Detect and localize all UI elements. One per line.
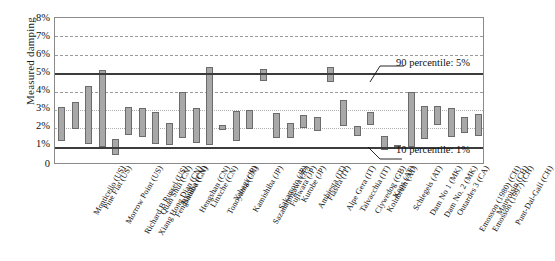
bar xyxy=(367,112,374,125)
bar xyxy=(139,108,146,137)
bar xyxy=(99,70,106,146)
annotation-p90-leader xyxy=(370,62,406,84)
bar xyxy=(58,107,65,141)
gridline-7 xyxy=(55,36,483,37)
bar xyxy=(300,115,307,128)
bar xyxy=(193,108,200,143)
bar xyxy=(166,123,173,145)
gridline-2 xyxy=(55,128,483,129)
reference-line-5 xyxy=(55,73,483,75)
y-tick-1: 1% xyxy=(26,139,50,150)
bar xyxy=(246,110,253,129)
gridline-6 xyxy=(55,55,483,56)
gridline-3 xyxy=(55,110,483,111)
bar xyxy=(421,106,428,139)
y-tick-3: 3% xyxy=(26,103,50,114)
bar xyxy=(219,125,226,131)
y-tick-2: 2% xyxy=(26,121,50,132)
bar xyxy=(287,123,294,139)
x-axis-tick-labels: Monticello (US)Pine Flat (US)Morrow Poin… xyxy=(54,164,484,261)
bar xyxy=(354,126,361,135)
y-tick-8: 8% xyxy=(26,13,50,24)
y-axis-tick-labels: 8% 7% 6% 5% 4% 3% 2% 1% 0 xyxy=(22,0,50,261)
bar xyxy=(434,106,441,124)
bar xyxy=(179,92,186,139)
plot-area xyxy=(54,17,484,164)
bar xyxy=(461,117,468,133)
y-tick-4: 4% xyxy=(26,85,50,96)
annotation-p90: 90 percentile: 5% xyxy=(396,57,470,68)
bar xyxy=(273,113,280,139)
bar xyxy=(152,112,159,144)
bar xyxy=(206,67,213,145)
bar xyxy=(408,92,415,146)
bar xyxy=(448,108,455,136)
bar xyxy=(85,86,92,144)
annotation-p10-leader xyxy=(368,147,404,163)
bar xyxy=(72,102,79,130)
gridline-4 xyxy=(55,92,483,93)
bar xyxy=(125,107,132,135)
bar xyxy=(475,114,482,135)
y-tick-0: 0 xyxy=(26,159,50,170)
bar xyxy=(233,111,240,141)
bar xyxy=(340,100,347,127)
y-tick-7: 7% xyxy=(26,31,50,42)
y-tick-5: 5% xyxy=(26,67,50,78)
y-tick-6: 6% xyxy=(26,49,50,60)
bar xyxy=(314,117,321,131)
annotation-p10: 10 percentile: 1% xyxy=(396,144,470,155)
